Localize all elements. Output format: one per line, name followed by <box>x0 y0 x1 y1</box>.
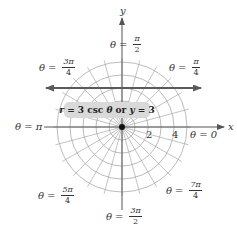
fraction-numerator: π <box>133 35 140 45</box>
theta-symbol: θ <box>110 40 116 50</box>
grid-spoke <box>73 127 122 176</box>
theta-symbol: θ <box>169 63 175 73</box>
fraction: 3π 4 <box>62 58 74 77</box>
fraction-denominator: 2 <box>133 217 138 226</box>
fraction-denominator: 4 <box>66 68 71 77</box>
angle-label-3pi-over-2: θ = 3π 2 <box>106 207 142 226</box>
x-axis-label: x <box>228 122 234 132</box>
fraction-numerator: 3π <box>62 58 74 68</box>
fraction-numerator: 7π <box>189 181 201 191</box>
grid-spoke <box>55 127 122 145</box>
grid-spoke <box>62 127 122 162</box>
grid-spoke <box>88 127 123 187</box>
fraction: π 4 <box>192 58 199 77</box>
equals-sign: = <box>48 63 56 73</box>
theta-symbol: θ <box>106 212 112 222</box>
fraction-numerator: π <box>192 58 199 68</box>
angle-label-text: θ = 0 <box>190 130 217 140</box>
angle-label-pi: θ = π <box>15 122 42 132</box>
equals-sign: = <box>47 191 55 201</box>
angle-label-text: θ = π <box>15 122 42 132</box>
fraction: 5π 4 <box>61 186 73 205</box>
grid-spoke <box>122 127 140 194</box>
label-eq-csc: = 3 csc <box>64 105 106 115</box>
equals-sign: = <box>178 63 186 73</box>
theta-symbol: θ <box>38 191 44 201</box>
angle-label-zero: θ = 0 <box>190 130 217 140</box>
theta-symbol: θ <box>39 63 45 73</box>
fraction: 3π 2 <box>129 207 141 226</box>
fraction-denominator: 4 <box>65 196 70 205</box>
fraction: 7π 4 <box>189 181 201 200</box>
fraction-denominator: 4 <box>193 191 198 200</box>
y-axis-label: y <box>120 6 126 16</box>
label-or: or <box>112 105 129 115</box>
fraction: π 2 <box>133 35 140 54</box>
equals-sign: = <box>115 212 123 222</box>
fraction-numerator: 5π <box>61 186 73 196</box>
grid-spoke <box>104 127 122 194</box>
equals-sign: = <box>175 186 183 196</box>
angle-label-pi-over-4: θ = π 4 <box>169 58 200 77</box>
grid-spoke <box>122 67 157 127</box>
fraction-numerator: 3π <box>129 207 141 217</box>
polar-graph-figure: y x 2 4 θ = π 2 θ = 3π 4 θ = π 4 θ = π θ… <box>0 0 237 234</box>
grid-spoke <box>122 127 189 145</box>
equals-sign: = <box>119 40 127 50</box>
grid-spoke <box>88 67 123 127</box>
curve-equation-label: r = 3 csc θ or y = 3 <box>64 102 150 118</box>
radial-tick-4: 4 <box>172 130 178 140</box>
angle-label-5pi-over-4: θ = 5π 4 <box>38 186 74 205</box>
fraction-denominator: 2 <box>135 45 140 54</box>
pole-point <box>119 124 125 130</box>
fraction-denominator: 4 <box>194 68 199 77</box>
label-eq-3: = 3 <box>135 105 155 115</box>
theta-symbol: θ <box>166 186 172 196</box>
angle-label-7pi-over-4: θ = 7π 4 <box>166 181 202 200</box>
radial-tick-2: 2 <box>146 130 152 140</box>
angle-label-3pi-over-4: θ = 3π 4 <box>39 58 75 77</box>
angle-label-pi-over-2: θ = π 2 <box>110 35 141 54</box>
